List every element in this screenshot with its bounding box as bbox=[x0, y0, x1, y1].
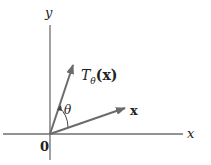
rotated-vector bbox=[50, 65, 73, 134]
rotated-vector-label: θTθ(x) bbox=[81, 68, 117, 86]
y-axis-label: y bbox=[45, 6, 52, 19]
origin-label: 0 bbox=[40, 140, 49, 153]
x-axis-label: x bbox=[187, 127, 194, 140]
vector-x bbox=[50, 108, 125, 134]
rotated-vector-argument: (x) bbox=[96, 67, 118, 83]
angle-theta-label: θ bbox=[64, 104, 71, 116]
rotation-diagram: y x 0 x θ θTθ(x) bbox=[0, 0, 211, 165]
rotated-vector-symbol: T bbox=[81, 67, 90, 83]
vector-x-label: x bbox=[130, 104, 138, 117]
